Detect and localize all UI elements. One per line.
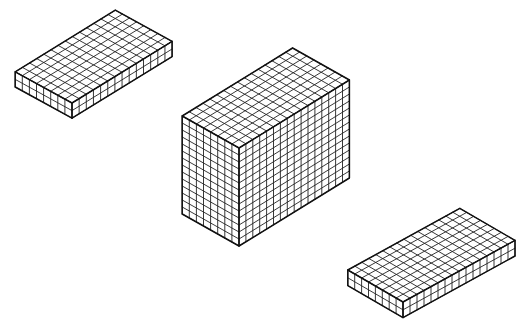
isometric-cube-prisms-figure [0,0,529,332]
prism-flat-top-left [15,10,172,118]
diagram-canvas [0,0,529,332]
prism-flat-bottom-right [348,208,515,317]
prism-tall-center [182,48,349,246]
